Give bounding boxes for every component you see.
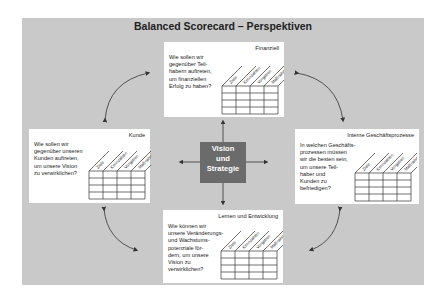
center-line: Strategie xyxy=(200,164,246,174)
perspective-question: Wie sollen wir gegenüber Teil- habern au… xyxy=(169,54,212,90)
column-header: Ziele xyxy=(95,159,105,169)
perspective-question: Wie können wir unsere Veränderungs- und … xyxy=(168,223,223,273)
scorecard-table: Ziele Kennzahlen Vorgaben Maßnahmen xyxy=(219,215,283,281)
perspective-kunde: Kunde Wie sollen wir gegenüber unseren K… xyxy=(29,129,150,203)
center-line: und xyxy=(200,154,246,164)
perspective-question: Wie sollen wir gegenüber unseren Kunden … xyxy=(34,141,83,177)
column-header: Ziele xyxy=(361,161,371,171)
vision-strategy-box: Vision und Strategie xyxy=(200,142,246,183)
perspective-prozesse: Interne Geschäftsprozesse In welchen Ges… xyxy=(295,129,419,204)
scorecard-table: Ziele Kennzahlen Vorgaben Maßnahmen xyxy=(353,137,417,203)
center-line: Vision xyxy=(200,144,246,154)
column-header: Ziele xyxy=(227,239,237,249)
scorecard-table: Ziele Kennzahlen Vorgaben Maßnahmen xyxy=(220,50,284,116)
column-header: Ziele xyxy=(228,74,238,84)
perspective-lernen: Lernen und Entwicklung Wie können wir un… xyxy=(163,210,283,283)
scorecard-table: Ziele Kennzahlen Vorgaben Maßnahmen xyxy=(87,135,151,201)
perspective-finanziell: Finanziell Wie sollen wir gegenüber Teil… xyxy=(164,42,284,117)
perspective-question: In welchen Geschäfts- prozessen müssen w… xyxy=(300,142,355,192)
